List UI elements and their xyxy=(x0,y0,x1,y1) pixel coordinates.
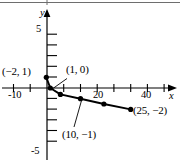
plot-canvas xyxy=(0,0,180,167)
data-point xyxy=(58,92,63,97)
leader-line-point-c xyxy=(74,101,82,128)
x-tick-label-40: 40 xyxy=(141,90,151,101)
point-label-1-0: (1, 0) xyxy=(66,64,89,75)
point-label-25-neg2: (25, −2) xyxy=(133,105,167,116)
y-tick-label-neg5: -5 xyxy=(31,146,39,157)
point-label-neg2-1: (−2, 1) xyxy=(2,66,31,77)
data-point xyxy=(48,85,53,90)
y-tick-label-5: 5 xyxy=(36,24,41,35)
point-label-10-neg1: (10, −1) xyxy=(62,129,96,140)
x-axis-label: x xyxy=(169,91,173,102)
page-top-rule xyxy=(0,0,180,5)
y-axis-label: y xyxy=(40,8,44,19)
x-tick-label-neg10: -10 xyxy=(8,90,21,101)
data-point xyxy=(78,96,83,101)
data-point xyxy=(44,75,49,80)
x-tick-label-20: 20 xyxy=(93,90,103,101)
graph-figure: -10 20 40 5 -5 y x (−2, 1) (1, 0) (10, −… xyxy=(0,0,180,167)
data-point xyxy=(101,101,106,106)
